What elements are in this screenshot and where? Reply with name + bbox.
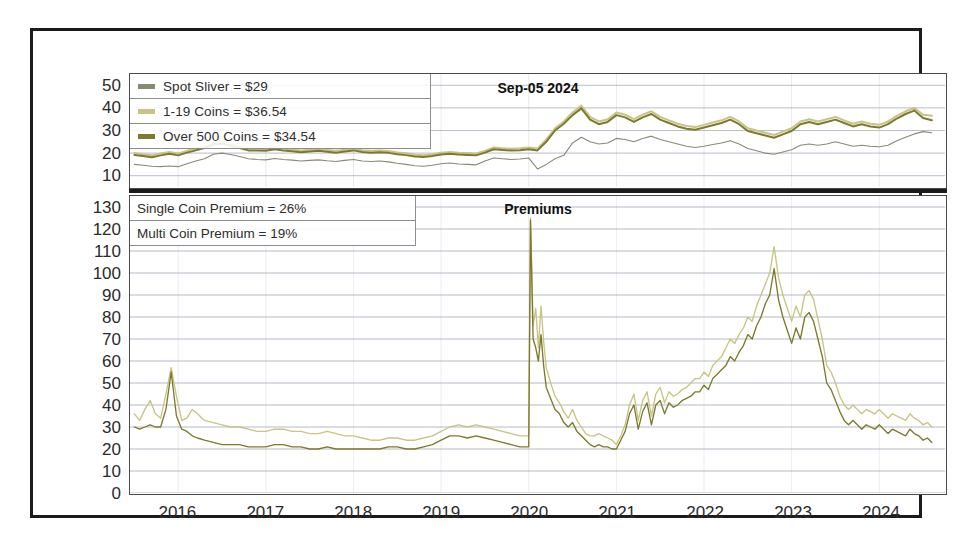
premium-note-2: Multi Coin Premium = 19%	[130, 221, 415, 246]
premium-note-1: Single Coin Premium = 26%	[130, 196, 415, 221]
legend-label: Over 500 Coins = $34.54	[163, 129, 316, 144]
premium-y-tick: 100	[93, 264, 121, 284]
premium-y-tick: 130	[93, 198, 121, 218]
x-axis-tick: 2024	[862, 503, 900, 523]
x-axis-tick: 2019	[422, 503, 460, 523]
panel-divider	[129, 189, 947, 193]
x-axis-tick: 2018	[334, 503, 372, 523]
premium-y-tick: 0	[112, 484, 121, 504]
x-axis-tick: 2022	[686, 503, 724, 523]
price-y-tick: 20	[102, 144, 121, 164]
price-panel-title: Sep-05 2024	[498, 80, 579, 96]
price-y-tick: 30	[102, 121, 121, 141]
premium-y-tick: 30	[102, 418, 121, 438]
legend-item-3[interactable]: Over 500 Coins = $34.54	[130, 124, 430, 149]
price-y-tick: 50	[102, 76, 121, 96]
x-axis-labels: 201620172018201920202021202220232024	[129, 501, 947, 527]
premium-y-tick: 40	[102, 396, 121, 416]
legend-swatch-icon	[138, 84, 155, 89]
price-y-axis-labels: 1020304050	[65, 73, 121, 189]
premium-y-tick: 120	[93, 220, 121, 240]
x-axis-tick: 2021	[598, 503, 636, 523]
premium-y-tick: 110	[94, 242, 121, 262]
legend-swatch-icon	[138, 134, 155, 139]
premium-y-tick: 80	[102, 308, 121, 328]
premium-panel-title: Premiums	[504, 201, 572, 217]
x-axis-tick: 2023	[774, 503, 812, 523]
x-axis-tick: 2017	[246, 503, 284, 523]
premium-note-label: Single Coin Premium = 26%	[137, 201, 306, 216]
price-y-tick: 10	[102, 166, 121, 186]
price-legend: Spot Sliver = $291-19 Coins = $36.54Over…	[130, 74, 431, 149]
premium-y-tick: 10	[102, 462, 121, 482]
legend-item-1[interactable]: Spot Sliver = $29	[130, 74, 430, 99]
chart-outer-frame: 1020304050 Sep-05 2024 Spot Sliver = $29…	[30, 28, 922, 518]
premium-annotations: Single Coin Premium = 26%Multi Coin Prem…	[130, 196, 416, 246]
premium-y-tick: 20	[102, 440, 121, 460]
x-axis-tick: 2020	[510, 503, 548, 523]
premium-y-tick: 90	[102, 286, 121, 306]
premium-y-tick: 70	[102, 330, 121, 350]
x-axis-tick: 2016	[158, 503, 196, 523]
chart-screenshot: 1020304050 Sep-05 2024 Spot Sliver = $29…	[0, 0, 956, 545]
legend-item-2[interactable]: 1-19 Coins = $36.54	[130, 99, 430, 124]
premium-y-axis-labels: 0102030405060708090100110120130	[65, 195, 121, 495]
legend-label: 1-19 Coins = $36.54	[163, 104, 287, 119]
premium-y-tick: 50	[102, 374, 121, 394]
premium-note-label: Multi Coin Premium = 19%	[137, 226, 297, 241]
premium-panel: Premiums Single Coin Premium = 26%Multi …	[129, 195, 947, 495]
price-panel: Sep-05 2024 Spot Sliver = $291-19 Coins …	[129, 73, 947, 189]
legend-swatch-icon	[138, 109, 155, 114]
price-y-tick: 40	[102, 98, 121, 118]
legend-label: Spot Sliver = $29	[163, 79, 268, 94]
premium-y-tick: 60	[102, 352, 121, 372]
